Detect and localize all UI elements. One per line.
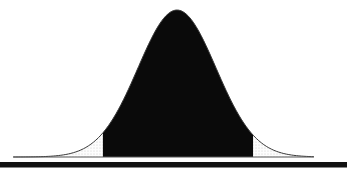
bottom-rule bbox=[0, 162, 347, 168]
central-region-fill bbox=[103, 10, 253, 157]
normal-distribution-figure bbox=[0, 0, 347, 170]
distribution-svg bbox=[0, 0, 347, 170]
